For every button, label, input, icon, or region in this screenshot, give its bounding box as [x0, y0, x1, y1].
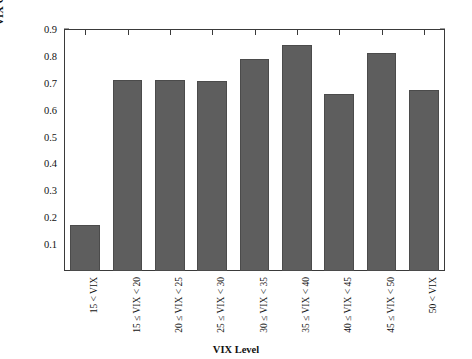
x-axis-tick-label: 45 ≤ VIX < 50 [386, 277, 396, 333]
y-axis-tick-label: 0.9 [0, 24, 64, 35]
bar [70, 225, 100, 271]
chart-figure: VIX Correlation to VVIX 0.10.20.30.40.50… [0, 0, 472, 359]
bar [155, 80, 185, 271]
y-axis-tick-label: 0.3 [0, 185, 64, 196]
y-axis-tick-label: 0.7 [0, 77, 64, 88]
x-axis-tick-label: 25 ≤ VIX < 30 [216, 277, 226, 333]
bar [282, 45, 312, 271]
x-axis-tick-label: 15 < VIX [89, 277, 99, 313]
bar [367, 53, 397, 271]
bar [240, 59, 270, 271]
y-axis-tick-label: 0.2 [0, 212, 64, 223]
y-axis-tick-label: 0.1 [0, 239, 64, 250]
y-axis-tick-label: 0.4 [0, 158, 64, 169]
x-axis-tick-label: 40 ≤ VIX < 45 [343, 277, 353, 333]
x-axis-tick-label: 30 ≤ VIX < 35 [259, 277, 269, 333]
bar [324, 94, 354, 271]
x-axis-tick-label: 35 ≤ VIX < 40 [301, 277, 311, 333]
y-axis-tick-label: 0.6 [0, 104, 64, 115]
x-axis-tick-label: 50 < VIX [428, 277, 438, 313]
bar [113, 80, 143, 271]
x-axis-tick-label: 20 ≤ VIX < 25 [174, 277, 184, 333]
x-axis-title: VIX Level [0, 344, 472, 355]
x-axis-tick-label: 15 ≤ VIX < 20 [132, 277, 142, 333]
y-axis-tick-label: 0.5 [0, 131, 64, 142]
y-axis-tick-label: 0.8 [0, 50, 64, 61]
bar-series [64, 29, 445, 271]
bar [409, 90, 439, 272]
bar [197, 81, 227, 271]
